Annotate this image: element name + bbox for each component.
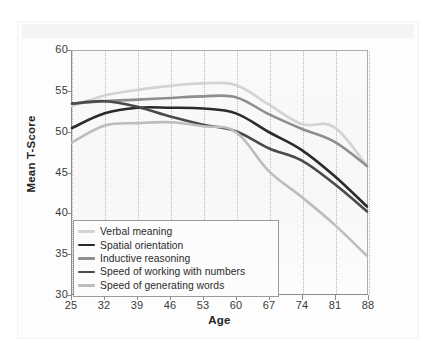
x-tick-label-67: 67	[252, 299, 286, 311]
legend-label: Verbal meaning	[100, 226, 172, 237]
x-tick-label-60: 60	[219, 299, 253, 311]
legend-swatch-inductive-reasoning	[78, 257, 95, 260]
legend-label: Speed of generating words	[100, 280, 224, 291]
y-tick-label-35: 35	[42, 247, 68, 259]
x-tick-mark-74	[302, 295, 303, 300]
line-chart-figure: Mean T-Score 30354045505560 253239465360…	[0, 0, 442, 359]
y-tick-label-60: 60	[42, 43, 68, 55]
legend-label: Inductive reasoning	[100, 253, 190, 264]
x-tick-label-39: 39	[120, 299, 154, 311]
x-tick-label-53: 53	[186, 299, 220, 311]
x-axis-label: Age	[71, 314, 368, 326]
legend-item-speed-of-working-with-numbers[interactable]: Speed of working with numbers	[78, 265, 273, 278]
legend-swatch-speed-of-working-with-numbers	[78, 271, 95, 274]
chart-legend: Verbal meaningSpatial orientationInducti…	[73, 220, 279, 297]
legend-item-inductive-reasoning[interactable]: Inductive reasoning	[78, 252, 273, 265]
y-tick-label-45: 45	[42, 166, 68, 178]
legend-swatch-verbal-meaning	[78, 230, 95, 233]
x-tick-mark-81	[335, 295, 336, 300]
legend-item-spatial-orientation[interactable]: Spatial orientation	[78, 238, 273, 251]
legend-swatch-spatial-orientation	[78, 244, 95, 247]
x-tick-label-81: 81	[318, 299, 352, 311]
legend-label: Spatial orientation	[100, 240, 183, 251]
x-tick-label-88: 88	[351, 299, 385, 311]
series-line-spatial-orientation	[72, 107, 367, 206]
legend-item-speed-of-generating-words[interactable]: Speed of generating words	[78, 279, 273, 292]
series-line-inductive-reasoning	[72, 95, 367, 166]
x-tick-mark-88	[368, 295, 369, 300]
series-line-speed-of-working-with-numbers	[72, 101, 367, 211]
x-tick-label-74: 74	[285, 299, 319, 311]
legend-item-verbal-meaning[interactable]: Verbal meaning	[78, 225, 273, 238]
y-tick-label-40: 40	[42, 206, 68, 218]
legend-label: Speed of working with numbers	[100, 266, 245, 277]
y-axis-label: Mean T-Score	[25, 99, 37, 209]
y-tick-label-50: 50	[42, 125, 68, 137]
x-tick-label-25: 25	[54, 299, 88, 311]
gridline-x-88	[369, 51, 370, 294]
legend-swatch-speed-of-generating-words	[78, 284, 95, 287]
x-tick-label-32: 32	[87, 299, 121, 311]
x-tick-mark-25	[71, 295, 72, 300]
x-tick-label-46: 46	[153, 299, 187, 311]
y-tick-label-55: 55	[42, 84, 68, 96]
